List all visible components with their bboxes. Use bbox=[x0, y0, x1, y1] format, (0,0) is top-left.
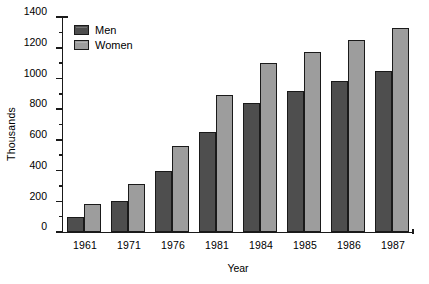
x-tick-label: 1987 bbox=[371, 239, 415, 251]
bar-women-1984 bbox=[260, 63, 277, 232]
bar-women-1981 bbox=[216, 95, 233, 232]
bar-women-1961 bbox=[84, 204, 101, 232]
bar-women-1987 bbox=[392, 28, 409, 232]
bar-women-1985 bbox=[304, 52, 321, 232]
y-tick-label: 1000 bbox=[24, 67, 47, 79]
bar-group: 1981 bbox=[195, 18, 239, 232]
bar-men-1961 bbox=[67, 217, 84, 232]
bar-men-1981 bbox=[199, 132, 216, 232]
x-tick-label: 1986 bbox=[327, 239, 371, 251]
bar-men-1976 bbox=[155, 171, 172, 232]
bar-women-1986 bbox=[348, 40, 365, 232]
x-tick-label: 1985 bbox=[283, 239, 327, 251]
x-tick-label: 1984 bbox=[239, 239, 283, 251]
y-axis-title: Thousands bbox=[4, 84, 18, 184]
y-tick-major: 0 bbox=[56, 231, 63, 233]
y-tick-label: 0 bbox=[41, 220, 47, 232]
legend: Men Women bbox=[74, 24, 133, 51]
x-tick-label: 1961 bbox=[63, 239, 107, 251]
legend-swatch-women bbox=[74, 40, 89, 50]
y-tick-label: 1400 bbox=[24, 5, 47, 17]
x-axis-title: Year bbox=[62, 262, 414, 274]
bar-women-1971 bbox=[128, 184, 145, 232]
y-tick-label: 200 bbox=[29, 190, 47, 202]
legend-item-women: Women bbox=[74, 39, 133, 51]
bar-group: 1984 bbox=[239, 18, 283, 232]
y-tick-major: 400 bbox=[56, 170, 63, 172]
bar-men-1986 bbox=[331, 81, 348, 232]
bar-group: 1985 bbox=[283, 18, 327, 232]
bar-men-1971 bbox=[111, 201, 128, 232]
bar-women-1976 bbox=[172, 146, 189, 232]
y-tick-major: 1400 bbox=[56, 16, 63, 18]
bar-chart: Thousands 0200400600800100012001400 1961… bbox=[0, 0, 429, 284]
y-tick-label: 1200 bbox=[24, 36, 47, 48]
y-tick-label: 800 bbox=[29, 97, 47, 109]
bar-group: 1976 bbox=[151, 18, 195, 232]
x-tick-label: 1971 bbox=[107, 239, 151, 251]
bar-men-1984 bbox=[243, 103, 260, 232]
bar-group: 1987 bbox=[371, 18, 415, 232]
y-tick-label: 400 bbox=[29, 159, 47, 171]
bar-men-1985 bbox=[287, 91, 304, 232]
bar-men-1987 bbox=[375, 71, 392, 232]
legend-label-men: Men bbox=[95, 25, 116, 36]
legend-label-women: Women bbox=[95, 40, 133, 51]
legend-swatch-men bbox=[74, 25, 89, 35]
y-tick-major: 1000 bbox=[56, 78, 63, 80]
y-tick-major: 200 bbox=[56, 201, 63, 203]
y-axis-title-label: Thousands bbox=[5, 107, 17, 161]
y-tick-major: 1200 bbox=[56, 47, 63, 49]
x-tick-label: 1976 bbox=[151, 239, 195, 251]
y-tick-major: 800 bbox=[56, 108, 63, 110]
y-tick-major: 600 bbox=[56, 139, 63, 141]
legend-item-men: Men bbox=[74, 24, 133, 36]
y-tick-label: 600 bbox=[29, 128, 47, 140]
x-tick-label: 1981 bbox=[195, 239, 239, 251]
bar-group: 1986 bbox=[327, 18, 371, 232]
